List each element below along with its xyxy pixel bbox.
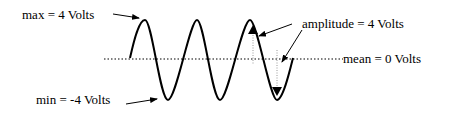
min-label: min = -4 Volts [36,92,110,107]
min-arrow [126,99,157,104]
max-label: max = 4 Volts [22,7,94,22]
max-arrow [113,14,139,18]
sine-wave-diagram: max = 4 Volts min = -4 Volts amplitude =… [0,0,455,118]
mean-label: mean = 0 Volts [343,51,421,66]
amplitude-arrow-peak [259,24,292,36]
amplitude-label: amplitude = 4 Volts [302,16,404,31]
amplitude-up-arrowhead [248,25,258,34]
amplitude-arrow-trough [282,30,302,62]
